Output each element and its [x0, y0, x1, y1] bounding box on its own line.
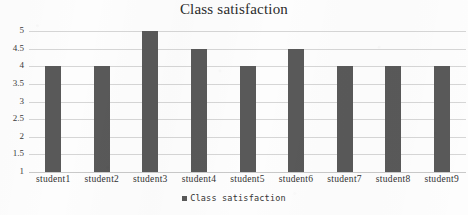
y-tick-label: 4 — [0, 60, 24, 70]
bar — [191, 49, 207, 172]
bar-chart: Class satisfaction 54.543.532.521.51 stu… — [0, 0, 468, 215]
bar — [288, 49, 304, 172]
gridline — [29, 31, 466, 32]
chart-title: Class satisfaction — [0, 1, 468, 18]
gridline — [29, 172, 466, 173]
y-tick-label: 3.5 — [0, 78, 24, 88]
x-tick-label: student9 — [412, 174, 468, 184]
y-tick-label: 2 — [0, 131, 24, 141]
y-tick-label: 4.5 — [0, 43, 24, 53]
y-tick-label: 3 — [0, 96, 24, 106]
y-axis: 54.543.532.521.51 — [0, 0, 26, 215]
bar — [240, 66, 256, 172]
bar — [385, 66, 401, 172]
chart-legend: Class satisfaction — [0, 193, 468, 203]
gridline — [29, 49, 466, 50]
y-tick-label: 5 — [0, 25, 24, 35]
y-tick-label: 1 — [0, 166, 24, 176]
y-tick-label: 2.5 — [0, 113, 24, 123]
bar — [142, 31, 158, 172]
x-axis: student1student2student3student4student5… — [29, 174, 466, 190]
bar — [94, 66, 110, 172]
bar — [434, 66, 450, 172]
legend-label: Class satisfaction — [190, 193, 286, 203]
y-tick-label: 1.5 — [0, 148, 24, 158]
plot-area — [29, 31, 466, 172]
bar — [337, 66, 353, 172]
bar — [45, 66, 61, 172]
legend-marker-square-icon — [182, 196, 187, 201]
